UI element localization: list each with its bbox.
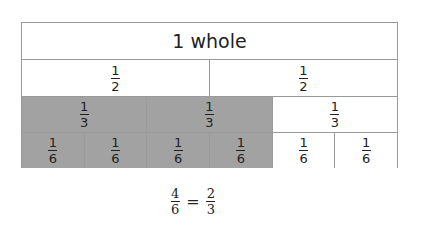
fraction-sixth: 16 bbox=[173, 136, 183, 165]
fraction-wall: 1 whole 12 12 13 13 13 16 16 16 16 bbox=[21, 22, 398, 168]
cell-half: 12 bbox=[210, 59, 397, 96]
cell-sixth: 16 bbox=[335, 132, 397, 168]
fraction-four-sixths: 46 bbox=[170, 187, 180, 216]
fraction-half: 12 bbox=[298, 64, 308, 93]
cell-third: 13 bbox=[273, 96, 397, 132]
fraction-sixth: 16 bbox=[298, 136, 308, 165]
cell-half: 12 bbox=[22, 59, 210, 96]
cell-sixth-shaded: 16 bbox=[210, 132, 273, 168]
cell-third-shaded: 13 bbox=[22, 96, 147, 132]
equals-sign: = bbox=[186, 192, 199, 211]
cell-sixth: 16 bbox=[273, 132, 336, 168]
fraction-third: 13 bbox=[330, 100, 340, 129]
row-sixths: 16 16 16 16 16 16 bbox=[22, 132, 397, 168]
fraction-third: 13 bbox=[204, 100, 214, 129]
whole-label: 1 whole bbox=[172, 30, 246, 52]
row-halves: 12 12 bbox=[22, 59, 397, 96]
cell-sixth-shaded: 16 bbox=[147, 132, 210, 168]
fraction-sixth: 16 bbox=[48, 136, 58, 165]
fraction-sixth: 16 bbox=[236, 136, 246, 165]
cell-sixth-shaded: 16 bbox=[85, 132, 148, 168]
fraction-two-thirds: 23 bbox=[206, 187, 216, 216]
fraction-half: 12 bbox=[110, 64, 120, 93]
cell-whole: 1 whole bbox=[22, 23, 397, 59]
row-whole: 1 whole bbox=[22, 23, 397, 59]
fraction-sixth: 16 bbox=[361, 136, 371, 165]
fraction-third: 13 bbox=[79, 100, 89, 129]
cell-sixth-shaded: 16 bbox=[22, 132, 85, 168]
row-thirds: 13 13 13 bbox=[22, 96, 397, 132]
equivalence-equation: 46 = 23 bbox=[170, 187, 216, 216]
cell-third-shaded: 13 bbox=[147, 96, 272, 132]
fraction-sixth: 16 bbox=[110, 136, 120, 165]
